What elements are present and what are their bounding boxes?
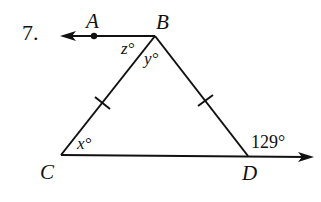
label-point-c: C xyxy=(40,162,54,183)
angle-z-label: z° xyxy=(121,40,134,57)
side-bc xyxy=(61,36,155,155)
angle-x-label: x° xyxy=(77,135,91,152)
problem-number: 7. xyxy=(22,22,39,44)
tick-mark-bc xyxy=(95,97,110,109)
side-bd xyxy=(155,36,248,156)
angle-y-label: y° xyxy=(144,50,158,67)
label-point-a: A xyxy=(86,11,99,32)
label-point-b: B xyxy=(156,12,169,33)
point-a-dot xyxy=(91,33,97,39)
angle-129-label: 129° xyxy=(251,133,285,151)
tick-mark-bd xyxy=(198,95,213,106)
ray-cd xyxy=(61,155,306,157)
label-point-d: D xyxy=(242,163,257,184)
